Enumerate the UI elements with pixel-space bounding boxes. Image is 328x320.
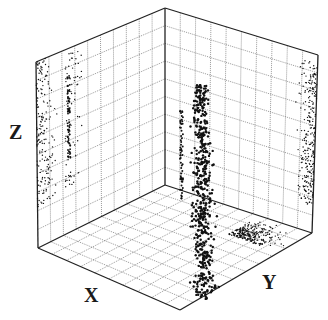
x-axis-label: X (84, 284, 98, 307)
grid-lines (36, 13, 317, 304)
cube-frame (36, 8, 318, 310)
data-points (36, 51, 318, 300)
y-axis-label: Y (262, 271, 276, 294)
z-axis-label: Z (9, 121, 22, 144)
scatter-3d-plot (0, 0, 328, 320)
